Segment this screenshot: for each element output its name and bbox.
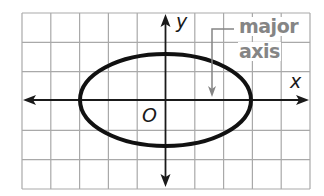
- x-axis-label: x: [290, 72, 301, 91]
- origin-label: O: [142, 106, 157, 125]
- y-axis-label: y: [176, 12, 187, 31]
- annotation-major: major: [238, 17, 299, 36]
- annotation-axis: axis: [238, 42, 281, 61]
